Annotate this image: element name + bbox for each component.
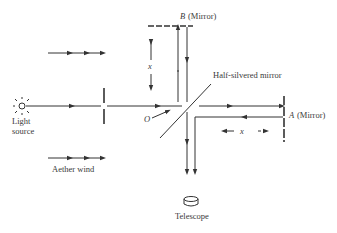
interferometer-diagram: Light source Aether wind B (Mirror) x — [0, 0, 337, 233]
beam-to-mirror-b — [178, 27, 187, 102]
return-beam-from-a — [195, 117, 283, 172]
light-source-label-line2: source — [12, 126, 34, 136]
telescope-label: Telescope — [175, 211, 209, 221]
mirror-b-letter: B — [180, 11, 185, 21]
mirror-b-label: (Mirror) — [188, 11, 216, 21]
mirror-a-letter: A — [288, 110, 295, 120]
half-silvered-mirror-label: Half-silvered mirror — [213, 70, 282, 80]
distance-vertical-label: x — [147, 61, 152, 71]
origin-pointer — [152, 111, 168, 118]
mirror-a-label: (Mirror) — [297, 110, 325, 120]
telescope-icon — [184, 197, 198, 207]
distance-horizontal-label: x — [239, 126, 244, 136]
light-source-label-line1: Light — [12, 116, 31, 126]
aether-wind-label: Aether wind — [52, 164, 95, 174]
origin-label: O — [144, 114, 150, 124]
